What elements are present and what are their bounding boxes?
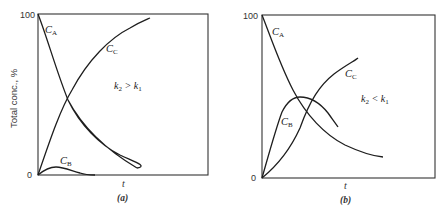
- panel-a-label-cb: CB: [60, 155, 72, 168]
- panel-b: 100 0 CA CC CB k2 < k1 t (b): [243, 11, 435, 206]
- panel-a-label-cc: CC: [106, 43, 118, 56]
- panel-a-rate-relation: k2 > k1: [114, 80, 142, 93]
- panel-b-ytick-0: 0: [251, 173, 256, 183]
- panel-a-curve-ca: [38, 14, 141, 168]
- panel-b-xlabel: t: [344, 180, 347, 191]
- panel-a-ytick-100: 100: [20, 10, 35, 20]
- panel-b-curve-cb: [262, 97, 338, 178]
- panel-b-ytick-100: 100: [243, 11, 258, 21]
- panel-b-axes-box: [262, 15, 435, 178]
- panel-b-rate-relation: k2 < k1: [361, 93, 389, 106]
- panel-b-label-cc: CC: [345, 68, 357, 81]
- panel-a-ylabel: Total conc., %: [8, 68, 19, 128]
- panel-a-label-ca: CA: [45, 24, 57, 37]
- panel-a-caption: (a): [117, 193, 128, 204]
- panel-a-axes-box: [38, 14, 208, 175]
- panel-a-curve-cb: [38, 167, 95, 175]
- panel-a-xlabel: t: [122, 178, 125, 189]
- panel-b-label-cb: CB: [281, 116, 293, 129]
- panel-a-ytick-0: 0: [27, 170, 32, 180]
- panel-b-caption: (b): [340, 195, 351, 206]
- panel-a: 100 0 Total conc., % CA CC CB k2 > k1 t …: [8, 10, 208, 204]
- panel-a-curve-cc: [38, 18, 150, 175]
- panel-b-label-ca: CA: [272, 26, 284, 39]
- figure: 100 0 Total conc., % CA CC CB k2 > k1 t …: [0, 0, 446, 213]
- panel-b-curve-cc: [262, 58, 358, 178]
